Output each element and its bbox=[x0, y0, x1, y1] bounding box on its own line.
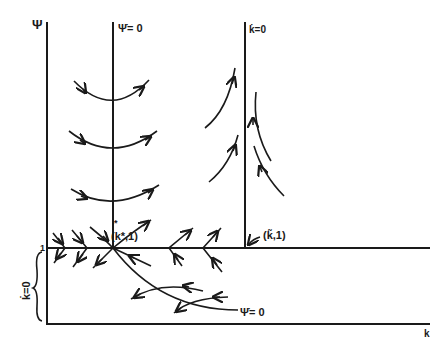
svg-text:(k*,1): (k*,1) bbox=[111, 230, 138, 242]
left-saddle-trajectories bbox=[53, 220, 151, 268]
k-axis-label: k bbox=[424, 328, 430, 339]
tilde-point-label: (k̃,1) bbox=[249, 229, 286, 244]
psi-axis-label: Ψ bbox=[32, 17, 43, 32]
svg-text:*: * bbox=[114, 218, 118, 228]
psi-dot-zero-vertical-label: Ψ̇= 0 bbox=[118, 22, 143, 34]
svg-text:(k̃,1): (k̃,1) bbox=[263, 229, 286, 241]
steady-state-label: * (k*,1) bbox=[111, 218, 138, 242]
phase-diagram: Ψ k 1 Ψ̇= 0 k̇=0 bbox=[0, 0, 445, 344]
right-branch-trajectories bbox=[169, 228, 222, 272]
psi-dot-zero-curve-label: Ψ̇= 0 bbox=[240, 306, 265, 318]
k-dot-zero-brace: k̇=0 bbox=[20, 252, 42, 321]
svg-text:k̇=0: k̇=0 bbox=[20, 281, 32, 300]
k-dot-zero-vertical-label: k̇=0 bbox=[249, 24, 266, 35]
